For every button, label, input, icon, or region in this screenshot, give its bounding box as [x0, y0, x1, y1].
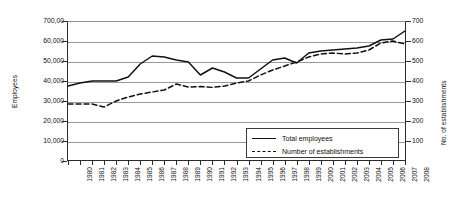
series-line-number-of-establishments	[68, 41, 405, 107]
y-axis-left-tick-label: 30,000	[20, 97, 64, 104]
x-axis-tick-label: 1988	[182, 167, 189, 182]
y-axis-right-title: No. of establishments	[440, 80, 447, 145]
x-axis-tick-label: 1997	[290, 167, 297, 182]
x-axis-tick-label: 1993	[242, 167, 249, 182]
x-axis-tick-label: 2001	[338, 167, 345, 182]
y-axis-right-tick-mark	[406, 121, 411, 122]
y-axis-left-tick-label: 10,000	[20, 137, 64, 144]
y-axis-left-tick-label: 40,000	[20, 77, 64, 84]
y-axis-right-tick-label: 500	[412, 57, 442, 64]
x-axis-tick-label: 2004	[375, 167, 382, 182]
x-axis-tick-mark	[92, 161, 93, 165]
x-axis-tick-mark	[188, 161, 189, 165]
y-axis-left-tick-mark	[62, 61, 67, 62]
y-axis-right-tick-mark	[406, 81, 411, 82]
y-axis-left-tick-mark	[62, 121, 67, 122]
x-axis-tick-label: 2007	[411, 167, 418, 182]
y-axis-right-tick-label: 600	[412, 37, 442, 44]
y-axis-right-tick-label: 200	[412, 117, 442, 124]
x-axis-tick-label: 2002	[350, 167, 357, 182]
x-axis-tick-label: 2003	[362, 167, 369, 182]
y-axis-right-tick-mark	[406, 101, 411, 102]
x-axis-tick-mark	[152, 161, 153, 165]
x-axis-tick-label: 1999	[314, 167, 321, 182]
y-axis-left-tick-label: 700,00	[20, 17, 64, 24]
y-axis-right-tick-mark	[406, 61, 411, 62]
y-axis-right-tick-mark	[406, 21, 411, 22]
x-axis-tick-mark	[357, 161, 358, 165]
x-axis-tick-label: 1985	[146, 167, 153, 182]
y-axis-left-tick-mark	[62, 141, 67, 142]
y-axis-left-tick-mark	[62, 21, 67, 22]
x-axis-tick-label: 2006	[399, 167, 406, 182]
x-axis-tick-label: 1994	[254, 167, 261, 182]
legend-swatch-solid-line-icon	[251, 135, 277, 143]
x-axis-tick-label: 1987	[170, 167, 177, 182]
x-axis-tick-mark	[212, 161, 213, 165]
x-axis-tick-mark	[128, 161, 129, 165]
x-axis-tick-label: 1992	[230, 167, 237, 182]
legend-item-number-of-establishments: Number of establishments	[251, 145, 394, 158]
y-axis-left-tick-label: 0	[20, 157, 64, 164]
x-axis-tick-mark	[369, 161, 370, 165]
chart-container: Employees No. of establishments 010,0002…	[0, 0, 450, 206]
x-axis-tick-label: 1982	[110, 167, 117, 182]
y-axis-right-tick-mark	[406, 41, 411, 42]
y-axis-right-tick-label: 400	[412, 77, 442, 84]
y-axis-right-tick-mark	[406, 141, 411, 142]
y-axis-left-tick-mark	[62, 101, 67, 102]
x-axis-tick-label: 1984	[134, 167, 141, 182]
y-axis-left-tick-label: 20,000	[20, 117, 64, 124]
legend-swatch-dashed-line-icon	[251, 148, 277, 156]
x-axis-tick-mark	[200, 161, 201, 165]
legend-label: Number of establishments	[282, 148, 363, 155]
legend-item-total-employees: Total employees	[251, 132, 394, 145]
x-axis-tick-mark	[249, 161, 250, 165]
x-axis-tick-mark	[393, 161, 394, 165]
x-axis-tick-mark	[237, 161, 238, 165]
legend-label: Total employees	[282, 135, 333, 142]
x-axis-tick-label: 1996	[278, 167, 285, 182]
x-axis-tick-label: 1991	[218, 167, 225, 182]
x-axis-tick-label: 2008	[423, 167, 430, 182]
legend: Total employees Number of establishments	[246, 128, 399, 158]
x-axis-tick-mark	[309, 161, 310, 165]
y-axis-left-tick-label: 50,000	[20, 57, 64, 64]
y-axis-right-tick-label: 300	[412, 97, 442, 104]
x-axis-tick-label: 1981	[98, 167, 105, 182]
x-axis-tick-mark	[116, 161, 117, 165]
y-axis-left-tick-mark	[62, 161, 67, 162]
y-axis-left-tick-mark	[62, 81, 67, 82]
x-axis-tick-label: 2005	[387, 167, 394, 182]
x-axis-tick-label: 1995	[266, 167, 273, 182]
y-axis-right-tick-label: 700	[412, 17, 442, 24]
x-axis-tick-mark	[273, 161, 274, 165]
x-axis-tick-label: 1990	[206, 167, 213, 182]
x-axis-tick-mark	[176, 161, 177, 165]
x-axis-tick-mark	[68, 161, 69, 165]
x-axis-tick-label: 2000	[326, 167, 333, 182]
x-axis-tick-mark	[381, 161, 382, 165]
y-axis-left-tick-mark	[62, 41, 67, 42]
x-axis-tick-mark	[164, 161, 165, 165]
x-axis-tick-label: 1986	[158, 167, 165, 182]
x-axis-tick-mark	[224, 161, 225, 165]
x-axis-tick-mark	[297, 161, 298, 165]
x-axis-tick-label: 1989	[194, 167, 201, 182]
x-axis-tick-mark	[80, 161, 81, 165]
x-axis-tick-mark	[285, 161, 286, 165]
y-axis-right-tick-label: 100	[412, 137, 442, 144]
x-axis-tick-label: 1983	[122, 167, 129, 182]
series-line-total-employees	[68, 31, 405, 86]
x-axis-tick-label: 1998	[302, 167, 309, 182]
x-axis-tick-mark	[261, 161, 262, 165]
x-axis-tick-mark	[345, 161, 346, 165]
x-axis-tick-mark	[140, 161, 141, 165]
y-axis-left-title: Employees	[11, 75, 18, 108]
x-axis-tick-mark	[405, 161, 406, 165]
x-axis-tick-label: 1980	[86, 167, 93, 182]
x-axis-tick-mark	[333, 161, 334, 165]
x-axis-tick-mark	[104, 161, 105, 165]
x-axis-tick-mark	[321, 161, 322, 165]
y-axis-left-tick-label: 60,000	[20, 37, 64, 44]
